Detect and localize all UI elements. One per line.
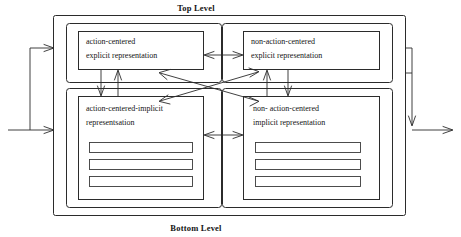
box-action-centered-explicit-line2: explicit representation: [86, 51, 157, 60]
slot-bar-left-2: [90, 160, 193, 170]
box-non-action-centered-explicit-line2: explicit representation: [251, 51, 322, 60]
slot-bar-left-1: [90, 143, 193, 153]
diagram-canvas: Top Level Bottom Level action-centered e…: [0, 0, 461, 237]
box-action-centered-implicit-line1: action-centered-implicit: [86, 104, 164, 113]
box-action-centered-implicit-line2: representsation: [86, 118, 134, 127]
top-level-label: Top Level: [177, 3, 215, 13]
slot-bar-right-1: [256, 143, 361, 153]
slot-bar-right-3: [256, 177, 361, 187]
box-non-action-centered-implicit-line1: non- action-centered: [253, 104, 319, 113]
diagram-root: Top Level Bottom Level action-centered e…: [0, 0, 461, 237]
box-non-action-centered-explicit-line1: non-action-centered: [251, 37, 315, 46]
slot-bar-right-2: [256, 160, 361, 170]
left-input-riser: [30, 48, 53, 130]
right-output-top-line: [405, 48, 412, 125]
bottom-level-label: Bottom Level: [170, 223, 222, 233]
slot-bar-left-3: [90, 177, 193, 187]
box-action-centered-explicit-line1: action-centered: [86, 37, 135, 46]
box-non-action-centered-implicit-line2: implicit representation: [253, 118, 325, 127]
